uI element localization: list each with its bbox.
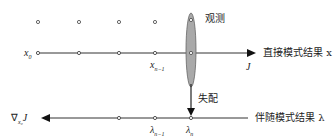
forward-arrowhead <box>247 49 256 57</box>
lambda-n-1-label: λn−1 <box>150 125 164 137</box>
lambda-n-label: λn <box>186 125 193 137</box>
x0-label: x0 <box>24 48 31 60</box>
mismatch-label: 失配 <box>198 94 218 104</box>
forward-result-label: 直接模式结果 x <box>263 48 332 58</box>
J-label: J <box>246 62 250 72</box>
adjoint-result-label: 伴随模式结果 λ <box>255 113 325 123</box>
gradient-label: ∇x₀J <box>11 113 27 125</box>
observation-dots <box>36 20 156 23</box>
observation-label: 观测 <box>205 14 225 24</box>
observation-ellipse <box>186 13 196 87</box>
xn-1-label: xn−1 <box>150 60 165 72</box>
adjoint-arrowhead <box>41 114 50 122</box>
